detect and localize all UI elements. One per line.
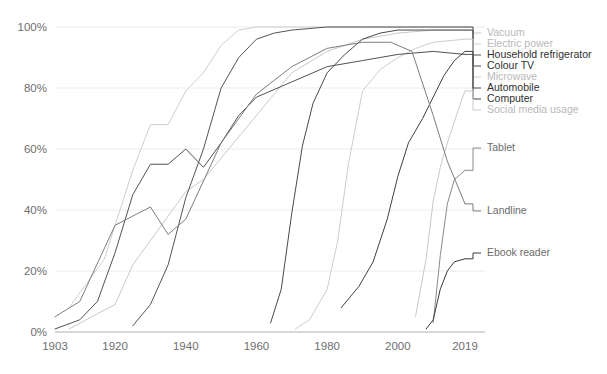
series-line-household-refrigerator[interactable] [133, 27, 465, 326]
legend-connector-social-media-usage [465, 91, 481, 110]
series-line-microwave[interactable] [295, 39, 465, 329]
x-axis-tick-label: 1920 [102, 340, 128, 352]
series-line-ebook-reader[interactable] [426, 259, 465, 329]
technology-adoption-chart: 0%20%40%60%80%100%1903192019401960198020… [0, 0, 607, 374]
legend-connector-tablet [465, 148, 481, 170]
x-axis-tick-label: 1903 [42, 340, 68, 352]
y-axis-tick-label: 100% [18, 21, 47, 33]
y-axis-tick-label: 20% [24, 265, 47, 277]
y-axis-tick-label: 40% [24, 204, 47, 216]
x-axis-tick-label: 1960 [244, 340, 270, 352]
series-line-electric-power[interactable] [69, 27, 465, 308]
y-axis-tick-label: 80% [24, 82, 47, 94]
y-axis-tick-label: 0% [30, 326, 47, 338]
legend-item-social-media-usage[interactable]: Social media usage [487, 104, 579, 115]
series-line-automobile[interactable] [55, 51, 465, 329]
series-line-vacuum[interactable] [69, 30, 465, 329]
x-axis-tick-label: 1940 [173, 340, 199, 352]
legend-connector-ebook-reader [465, 253, 481, 259]
x-axis-tick-label: 2019 [452, 340, 478, 352]
x-axis-tick-label: 1980 [314, 340, 340, 352]
x-axis-tick-label: 2000 [385, 340, 411, 352]
series-line-landline[interactable] [55, 42, 465, 317]
series-line-computer[interactable] [341, 51, 465, 307]
y-axis-tick-label: 60% [24, 143, 47, 155]
legend-item-tablet[interactable]: Tablet [487, 142, 515, 153]
legend-item-ebook-reader[interactable]: Ebook reader [487, 247, 550, 258]
series-line-colour-tv[interactable] [271, 30, 465, 323]
legend-item-landline[interactable]: Landline [487, 205, 527, 216]
series-line-social-media-usage[interactable] [416, 91, 465, 317]
